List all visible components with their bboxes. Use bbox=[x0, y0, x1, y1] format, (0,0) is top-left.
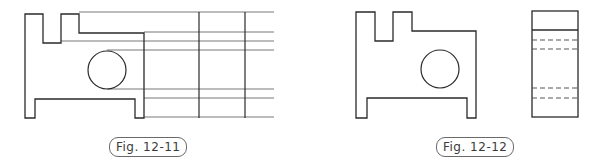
side-view-reference-lines bbox=[199, 12, 245, 118]
projection-lines bbox=[61, 12, 274, 117]
figure-caption: Fig. 12-12 bbox=[436, 137, 514, 157]
figure-caption: Fig. 12-11 bbox=[109, 137, 187, 157]
side-view bbox=[532, 11, 578, 117]
fig-12-11-drawing bbox=[25, 12, 274, 118]
front-view-hole bbox=[421, 50, 459, 88]
technical-drawing bbox=[0, 0, 600, 161]
hidden-lines bbox=[532, 40, 578, 98]
front-view-hole bbox=[88, 51, 126, 89]
fig-12-12-drawing bbox=[356, 11, 578, 118]
